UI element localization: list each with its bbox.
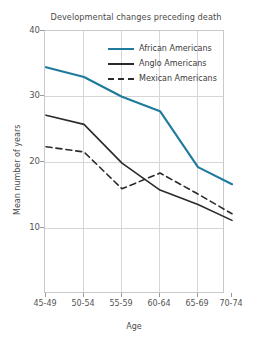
- legend-label: Anglo Americans: [139, 59, 207, 68]
- legend-label: African Americans: [139, 44, 212, 53]
- legend-item-anglo-americans: Anglo Americans: [108, 59, 217, 68]
- y-axis-tick-label: 10: [0, 222, 40, 232]
- y-axis-tick-label: 40: [0, 25, 40, 35]
- x-axis-label: Age: [44, 322, 224, 331]
- x-axis-tick-mark: [231, 293, 232, 297]
- chart-legend: African Americans Anglo Americans Mexica…: [108, 44, 217, 83]
- x-axis-tick-label: 70-74: [207, 299, 255, 308]
- legend-swatch-dashed-black-icon: [108, 75, 134, 83]
- line-series-mexican-americans: [46, 147, 232, 214]
- legend-item-mexican-americans: Mexican Americans: [108, 74, 217, 83]
- x-axis-tick-mark: [45, 293, 46, 297]
- legend-swatch-solid-blue-icon: [108, 45, 134, 53]
- chart-figure: Developmental changes preceding death 40…: [0, 0, 272, 346]
- x-axis-tick-mark: [159, 293, 160, 297]
- line-series-anglo-americans: [46, 115, 232, 220]
- x-axis-tick-mark: [121, 293, 122, 297]
- legend-swatch-solid-black-icon: [108, 60, 134, 68]
- y-axis-label: Mean number of years: [13, 125, 22, 215]
- y-axis-tick-label: 30: [0, 90, 40, 100]
- x-axis-tick-mark: [83, 293, 84, 297]
- chart-title: Developmental changes preceding death: [0, 12, 272, 22]
- legend-label: Mexican Americans: [139, 74, 217, 83]
- x-axis-tick-mark: [197, 293, 198, 297]
- line-series-african-americans: [46, 67, 232, 184]
- legend-item-african-americans: African Americans: [108, 44, 217, 53]
